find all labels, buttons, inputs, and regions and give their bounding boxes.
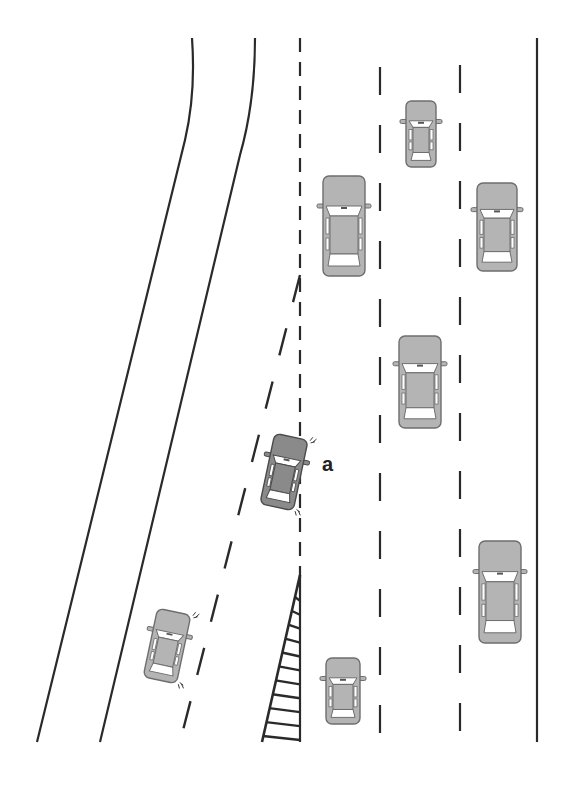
car-side-window [326, 238, 329, 250]
car-side-window [402, 393, 405, 404]
car-roof [333, 684, 353, 709]
car-rear-window [482, 252, 512, 263]
car-interior-mirror [494, 210, 500, 212]
background [0, 0, 567, 793]
car-side-window [511, 238, 514, 249]
car-roof [406, 373, 434, 408]
car-left-lane-lower [320, 658, 366, 724]
car-side-window [354, 686, 357, 697]
car-side-window [480, 220, 483, 234]
car-roof [413, 127, 429, 152]
car-rear-window [484, 621, 516, 633]
car-side-window [515, 584, 518, 600]
car-side-window [409, 129, 412, 140]
car-interior-mirror [417, 365, 423, 367]
car-roof [484, 218, 510, 251]
car-interior-mirror [340, 679, 346, 681]
car-right-lane-upper [471, 183, 523, 271]
car-side-window [435, 393, 438, 404]
car-interior-mirror [418, 122, 424, 124]
vehicle-a-label: a [322, 453, 334, 475]
car-side-window [354, 699, 357, 707]
car-side-window [435, 375, 438, 390]
car-roof [330, 216, 358, 254]
highway-merge-diagram: a [0, 0, 567, 793]
car-side-window [329, 686, 332, 697]
car-windshield [329, 678, 357, 685]
car-side-window [511, 220, 514, 234]
car-interior-mirror [341, 207, 347, 209]
car-side-window [482, 604, 485, 616]
car-side-window [329, 699, 332, 707]
car-side-window [482, 584, 485, 600]
car-windshield [409, 121, 433, 128]
car-roof [486, 582, 514, 621]
car-middle-lane [393, 336, 447, 428]
car-rear-window [328, 254, 360, 266]
car-rear-window [404, 408, 436, 419]
car-side-window [430, 129, 433, 140]
car-interior-mirror [497, 573, 503, 575]
car-left-lane-upper [317, 176, 371, 276]
car-side-window [359, 218, 362, 234]
car-top-middle [400, 101, 442, 167]
car-side-window [359, 238, 362, 250]
car-rear-window [331, 709, 355, 717]
car-side-window [480, 238, 483, 249]
car-rear-window [411, 152, 431, 160]
car-right-lane-lower [473, 541, 527, 643]
car-side-window [409, 142, 412, 150]
car-side-window [326, 218, 329, 234]
car-side-window [515, 604, 518, 616]
car-side-window [402, 375, 405, 390]
car-side-window [430, 142, 433, 150]
